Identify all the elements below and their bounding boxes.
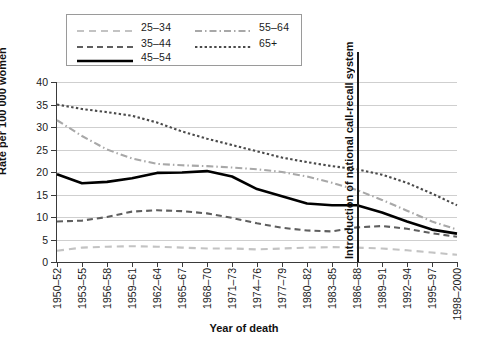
series-layer bbox=[57, 82, 457, 262]
y-axis-tick-label: 10 bbox=[36, 211, 48, 223]
x-axis-tick-label: 1950–52 bbox=[51, 268, 63, 309]
legend-swatch-icon bbox=[195, 38, 251, 48]
x-axis-tick-label: 1992–94 bbox=[401, 268, 413, 309]
series-line-55-64 bbox=[57, 120, 457, 229]
y-axis-tick-label: 35 bbox=[36, 99, 48, 111]
x-axis-tick bbox=[107, 262, 108, 267]
x-axis-tick-label: 1965–67 bbox=[176, 268, 188, 309]
x-axis-tick-label: 1962–64 bbox=[151, 268, 163, 309]
x-axis-tick-label: 1983–85 bbox=[326, 268, 338, 309]
plot-area: 05101520253035401950–521953–551956–58195… bbox=[57, 82, 457, 262]
legend-swatch-icon bbox=[77, 38, 133, 48]
x-axis-tick bbox=[57, 262, 58, 267]
x-axis-tick-label: 1971–73 bbox=[226, 268, 238, 309]
y-axis-tick-label: 0 bbox=[42, 256, 48, 268]
x-axis-tick bbox=[182, 262, 183, 267]
x-axis-tick-label: 1980–82 bbox=[301, 268, 313, 309]
y-axis-title: Rate per 100 000 women bbox=[0, 47, 8, 175]
x-axis-tick bbox=[457, 262, 458, 267]
y-axis-tick-label: 40 bbox=[36, 76, 48, 88]
x-axis-tick-label: 1977–79 bbox=[276, 268, 288, 309]
x-axis-tick bbox=[282, 262, 283, 267]
x-axis-tick bbox=[332, 262, 333, 267]
x-axis-tick bbox=[207, 262, 208, 267]
x-axis-tick-label: 1998–2000 bbox=[451, 268, 463, 321]
x-axis-tick-label: 1953–55 bbox=[76, 268, 88, 309]
x-axis-tick bbox=[82, 262, 83, 267]
x-axis-tick-label: 1959–61 bbox=[126, 268, 138, 309]
x-axis-tick-label: 1968–70 bbox=[201, 268, 213, 309]
series-line-25-34 bbox=[57, 246, 457, 255]
legend-swatch-icon bbox=[77, 52, 133, 62]
x-axis-tick-label: 1986–88 bbox=[351, 268, 363, 309]
x-axis-tick bbox=[432, 262, 433, 267]
x-axis-tick bbox=[132, 262, 133, 267]
x-axis-tick bbox=[232, 262, 233, 267]
x-axis-tick bbox=[307, 262, 308, 267]
legend-item-55-64: 55–64 bbox=[195, 21, 289, 33]
legend-item-45-54: 45–54 bbox=[77, 51, 171, 63]
x-axis-title: Year of death bbox=[0, 322, 488, 334]
y-axis-tick-label: 30 bbox=[36, 121, 48, 133]
series-line-35-44 bbox=[57, 210, 457, 237]
legend-label: 55–64 bbox=[259, 21, 289, 33]
annotation-label: Introduction of national call-recall sys… bbox=[343, 49, 355, 259]
legend-label: 35–44 bbox=[141, 37, 171, 49]
legend-swatch-icon bbox=[195, 22, 251, 32]
legend-swatch-icon bbox=[77, 22, 133, 32]
x-axis-tick bbox=[157, 262, 158, 267]
x-axis-tick bbox=[357, 262, 358, 267]
x-axis-tick-label: 1989–91 bbox=[376, 268, 388, 309]
x-axis-tick bbox=[382, 262, 383, 267]
x-axis-tick bbox=[407, 262, 408, 267]
legend-label: 25–34 bbox=[141, 21, 171, 33]
legend-item-65+: 65+ bbox=[195, 37, 277, 49]
legend-items: 25–3435–4445–5455–6465+ bbox=[67, 15, 301, 65]
legend-item-25-34: 25–34 bbox=[77, 21, 171, 33]
legend-item-35-44: 35–44 bbox=[77, 37, 171, 49]
y-axis-tick-label: 15 bbox=[36, 189, 48, 201]
y-axis-tick-label: 5 bbox=[42, 234, 48, 246]
x-axis-tick-label: 1995–97 bbox=[426, 268, 438, 309]
annotation-vertical-line bbox=[357, 52, 359, 262]
legend-label: 65+ bbox=[259, 37, 277, 49]
y-axis-tick-label: 20 bbox=[36, 166, 48, 178]
chart-figure: 25–3435–4445–5455–6465+ Rate per 100 000… bbox=[0, 0, 488, 348]
y-axis-tick-label: 25 bbox=[36, 144, 48, 156]
x-axis-tick-label: 1974–76 bbox=[251, 268, 263, 309]
legend-label: 45–54 bbox=[141, 51, 171, 63]
x-axis-tick bbox=[257, 262, 258, 267]
x-axis-tick-label: 1956–58 bbox=[101, 268, 113, 309]
chart-legend: 25–3435–4445–5455–6465+ bbox=[66, 14, 302, 66]
